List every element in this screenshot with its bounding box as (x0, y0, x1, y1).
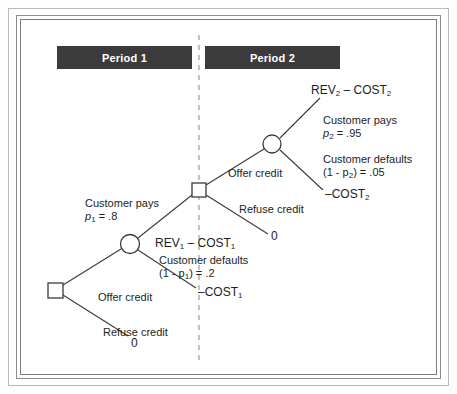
neg-cost2-text: –COST (325, 187, 365, 201)
payoff-period2-defaults: –COST2 (325, 188, 369, 204)
neg-cost1-subscript: 1 (238, 291, 242, 300)
period2-decision-node[interactable] (192, 183, 206, 197)
one-minus-p2-pre: (1 - p (323, 166, 349, 178)
customer-defaults-period1-probability: (1 - p1) = .2 (159, 267, 248, 283)
customer-defaults-period2-probability: (1 - p2) = .05 (323, 166, 412, 182)
customer-pays-period1-label: Customer pays p1 = .8 (85, 197, 159, 226)
rev2-text: REV (311, 83, 336, 97)
one-minus-p1-value: ) = .2 (189, 267, 214, 279)
customer-defaults-period1-label: Customer defaults (1 - p1) = .2 (159, 254, 248, 283)
customer-pays-period1-line1: Customer pays (85, 197, 159, 210)
neg-cost1-text: –COST (198, 285, 238, 299)
customer-pays-period1-probability: p1 = .8 (85, 210, 159, 226)
period1-chance-node[interactable] (121, 235, 140, 254)
p1-value: = .8 (96, 210, 118, 222)
branch-customer-pays-period2 (280, 98, 320, 138)
neg-cost2-subscript: 2 (365, 193, 369, 202)
customer-defaults-period1-line1: Customer defaults (159, 254, 248, 267)
one-minus-p2-value: ) = .05 (353, 166, 385, 178)
figure-root: Period 1 Period 2 REV2 – COST2 Cus (0, 0, 457, 394)
customer-pays-period2-probability: p2 = .95 (323, 127, 397, 143)
refuse-credit-period2-label: Refuse credit (239, 203, 304, 216)
cost2-subscript: 2 (387, 89, 391, 98)
customer-defaults-period2-label: Customer defaults (1 - p2) = .05 (323, 153, 412, 182)
payoff-period1-defaults: –COST1 (198, 286, 242, 302)
payoff-period2-refuse: 0 (271, 230, 278, 243)
one-minus-p1-pre: (1 - p (159, 267, 185, 279)
offer-credit-period1-label: Offer credit (98, 291, 152, 304)
customer-defaults-period2-line1: Customer defaults (323, 153, 412, 166)
customer-pays-period2-line1: Customer pays (323, 114, 397, 127)
rev1-text: REV (155, 236, 180, 250)
minus-cost2-text: – COST (340, 83, 387, 97)
branch-customer-defaults-period2 (280, 150, 323, 190)
branch-offer-credit-period1 (63, 249, 121, 285)
payoff-period2-pays: REV2 – COST2 (311, 84, 391, 100)
p2-value: = .95 (334, 127, 362, 139)
root-decision-node[interactable] (48, 283, 63, 298)
cost1-subscript: 1 (231, 242, 235, 251)
minus-cost1-text: – COST (184, 236, 231, 250)
payoff-period1-pays: REV1 – COST1 (155, 237, 235, 253)
payoff-period1-refuse: 0 (131, 337, 138, 350)
decision-tree-graphic (0, 0, 457, 394)
offer-credit-period2-label: Offer credit (228, 167, 282, 180)
period2-chance-node[interactable] (263, 135, 281, 153)
customer-pays-period2-label: Customer pays p2 = .95 (323, 114, 397, 143)
